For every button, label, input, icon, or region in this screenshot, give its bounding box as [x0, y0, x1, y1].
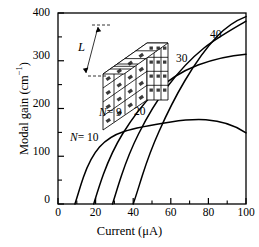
curve-label-20: 20 [134, 105, 146, 117]
inset-caption-n9: N= 9 [99, 106, 122, 118]
y-axis-title-exponent: −1 [14, 66, 24, 75]
x-tick-label-100: 100 [226, 206, 259, 218]
y-tick-label-0: 0 [10, 193, 50, 205]
inset-quantum-box-schematic [83, 25, 168, 130]
curve-label-n10-symbol: N [70, 131, 78, 143]
y-tick-label-100: 100 [10, 145, 50, 157]
inset-caption-n9-symbol: N [99, 106, 107, 118]
inset-L-dimension [83, 25, 112, 76]
y-axis-title-tail: ) [17, 62, 31, 66]
y-tick-label-400: 400 [10, 6, 50, 18]
x-tick-label-40: 40 [113, 206, 153, 218]
curve-n10-visible [75, 120, 246, 204]
figure-container: Modal gain (cm−1) Current (μA) 400 300 2… [0, 0, 259, 247]
x-tick-label-60: 60 [151, 206, 191, 218]
x-tick-label-0: 0 [38, 206, 78, 218]
y-axis-title-main: Modal gain (cm [17, 75, 31, 155]
y-axis-major-ticks [58, 13, 64, 204]
x-tick-label-20: 20 [76, 206, 116, 218]
curve-30 [113, 21, 247, 204]
curve-label-30: 30 [176, 52, 188, 64]
x-tick-label-80: 80 [188, 206, 228, 218]
y-tick-label-200: 200 [10, 97, 50, 109]
curve-label-n10-value: = 10 [78, 131, 99, 143]
curve-label-40: 40 [210, 28, 222, 40]
y-tick-label-300: 300 [10, 49, 50, 61]
inset-dimension-label-L: L [78, 40, 85, 55]
inset-caption-n9-value: = 9 [107, 106, 122, 118]
curve-label-n10: N= 10 [70, 131, 99, 143]
x-axis-title: Current (μA) [0, 224, 259, 239]
